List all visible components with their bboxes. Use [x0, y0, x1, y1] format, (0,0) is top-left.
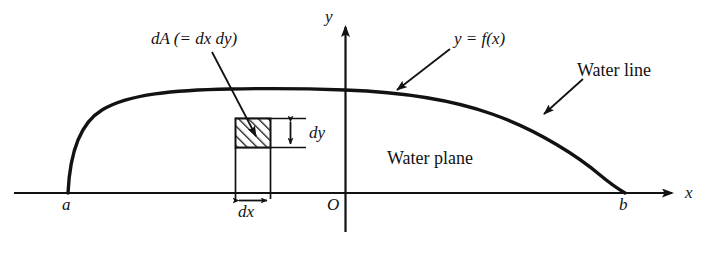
water-plane-figure: dA (= dx dy) y = f(x) Water line Water p… [0, 0, 703, 260]
water-plane-label: Water plane [387, 149, 473, 167]
right-intercept-label: b [619, 196, 628, 213]
dA-label: dA (= dx dy) [151, 30, 237, 47]
y-axis-label: y [325, 8, 333, 25]
dx-label: dx [238, 203, 254, 220]
left-intercept-label: a [62, 196, 71, 213]
dA-hatched-element [236, 119, 271, 148]
dy-label: dy [309, 124, 325, 141]
water-line-label: Water line [577, 61, 651, 79]
origin-label: O [327, 196, 339, 213]
water-line-leader-line [544, 79, 583, 114]
curve-label-leader-line [397, 49, 450, 90]
x-axis-label: x [685, 184, 693, 201]
curve-equation-label: y = f(x) [454, 30, 505, 47]
dA-leader-line [212, 52, 256, 136]
figure-canvas [0, 0, 703, 260]
